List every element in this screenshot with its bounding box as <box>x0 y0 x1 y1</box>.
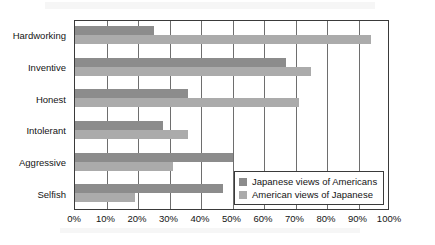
bar <box>75 162 173 171</box>
legend-label: American views of Japanese <box>252 190 373 200</box>
bar <box>75 35 371 44</box>
bar-group <box>75 53 388 85</box>
y-axis-label: Aggressive <box>19 147 66 179</box>
bar <box>75 67 311 76</box>
x-axis-tick-label: 90% <box>348 213 367 224</box>
y-axis-label: Hardworking <box>13 20 66 52</box>
legend-item: Japanese views of Americans <box>239 175 377 188</box>
bar <box>75 184 223 193</box>
x-axis-tick-label: 80% <box>316 213 335 224</box>
bar-group <box>75 21 388 53</box>
x-axis-tick-label: 0% <box>67 213 81 224</box>
bar <box>75 98 299 107</box>
bar <box>75 121 163 130</box>
x-axis-tick-labels: 0%10%20%30%40%50%60%70%80%90%100% <box>74 213 389 229</box>
bar <box>75 26 154 35</box>
bar <box>75 193 135 202</box>
bar <box>75 89 188 98</box>
bar <box>75 58 286 67</box>
bar-group <box>75 116 388 148</box>
legend-swatch-icon <box>239 178 247 186</box>
legend-item: American views of Japanese <box>239 188 377 201</box>
x-axis-tick-label: 60% <box>253 213 272 224</box>
y-axis-label: Selfish <box>37 178 66 210</box>
x-axis-tick-label: 30% <box>159 213 178 224</box>
y-axis-label: Inventive <box>28 52 66 84</box>
legend-label: Japanese views of Americans <box>252 177 377 187</box>
x-axis-tick-label: 50% <box>222 213 241 224</box>
bar <box>75 130 188 139</box>
x-axis-tick-label: 70% <box>285 213 304 224</box>
chart-legend: Japanese views of AmericansAmerican view… <box>234 171 384 205</box>
x-axis-tick-label: 40% <box>190 213 209 224</box>
x-axis-tick-label: 100% <box>377 213 401 224</box>
bar <box>75 153 233 162</box>
x-axis-tick-label: 20% <box>127 213 146 224</box>
plot-area: Japanese views of AmericansAmerican view… <box>74 20 389 210</box>
y-axis-label: Intolerant <box>26 115 66 147</box>
legend-swatch-icon <box>239 191 247 199</box>
bar-chart: HardworkingInventiveHonestIntolerantAggr… <box>0 0 435 245</box>
y-axis-label: Honest <box>36 83 66 115</box>
x-axis-tick-label: 10% <box>96 213 115 224</box>
bar-group <box>75 84 388 116</box>
y-axis-category-labels: HardworkingInventiveHonestIntolerantAggr… <box>0 20 70 210</box>
